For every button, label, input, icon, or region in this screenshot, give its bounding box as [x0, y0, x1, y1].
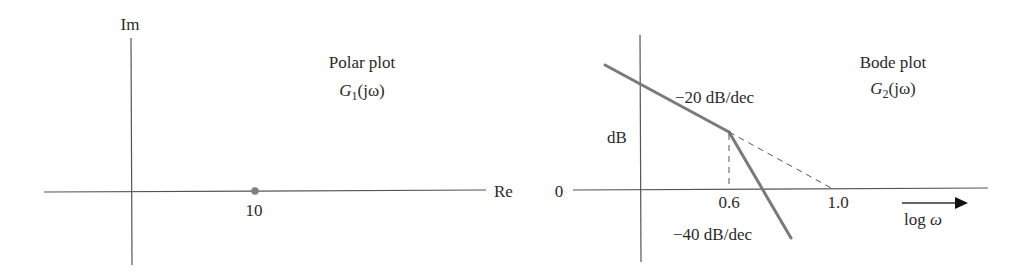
x-tick-0-6: 0.6 — [718, 193, 739, 212]
imag-axis-label: Im — [121, 15, 140, 34]
bode-y-axis-label: dB — [607, 128, 627, 147]
bode-plot-function: G2(jω) — [870, 79, 916, 101]
bode-plot-title: Bode plot — [860, 53, 927, 72]
figure: Im Re 10 Polar plot G1(jω) −20 dB/dec −4… — [0, 0, 1020, 280]
bode-y-zero-label: 0 — [555, 182, 564, 201]
bode-x-axis-label: log ω — [904, 210, 942, 229]
arrow-right-icon — [902, 197, 968, 209]
asymptote-minus40 — [729, 132, 791, 238]
polar-plot-function: G1(jω) — [339, 81, 385, 103]
polar-plot: Im Re 10 Polar plot G1(jω) — [44, 15, 513, 265]
polar-point — [251, 187, 259, 195]
slope-label-minus20: −20 dB/dec — [675, 88, 754, 107]
polar-plot-title: Polar plot — [329, 53, 396, 72]
bode-x-axis — [573, 188, 988, 190]
x-tick-1-0: 1.0 — [827, 193, 848, 212]
imag-axis — [131, 38, 132, 265]
polar-fn-suffix: (jω) — [358, 81, 385, 100]
slope-label-minus40: −40 dB/dec — [673, 225, 752, 244]
real-axis-label: Re — [494, 182, 513, 201]
bode-y-axis — [640, 35, 641, 262]
bode-plot: −20 dB/dec −40 dB/dec dB 0 0.6 1.0 Bode … — [555, 35, 988, 262]
polar-point-label: 10 — [246, 201, 263, 220]
real-axis — [44, 190, 486, 192]
